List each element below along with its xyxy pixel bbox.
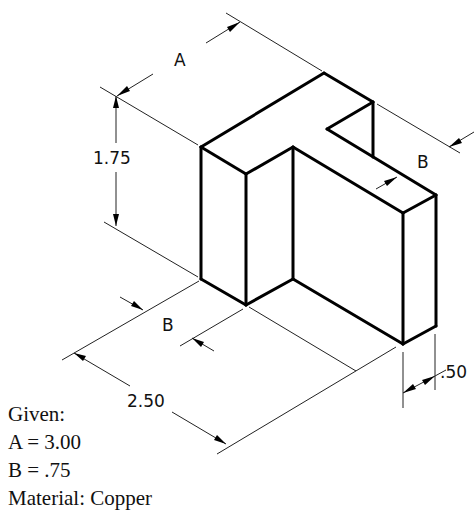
given-material: Material: Copper — [8, 484, 152, 512]
dimension-thickness: .50 — [403, 334, 467, 408]
dimension-b-top: B — [376, 104, 474, 189]
dimension-height-label: 1.75 — [93, 148, 131, 168]
dimension-b-bottom-label: B — [162, 315, 174, 335]
dimension-b-top-label: B — [417, 152, 429, 172]
given-b-value: B = .75 — [8, 456, 152, 484]
given-heading: Given: — [8, 400, 152, 428]
dimension-a-label: A — [174, 50, 186, 70]
dimension-a: A — [100, 13, 322, 145]
part-outline — [201, 73, 436, 344]
dimension-thickness-label: .50 — [440, 362, 467, 382]
given-notes: Given: A = 3.00 B = .75 Material: Copper — [8, 400, 152, 512]
given-a-value: A = 3.00 — [8, 428, 152, 456]
dimension-b-bottom: B — [62, 281, 243, 360]
dimension-height: 1.75 — [93, 96, 198, 277]
